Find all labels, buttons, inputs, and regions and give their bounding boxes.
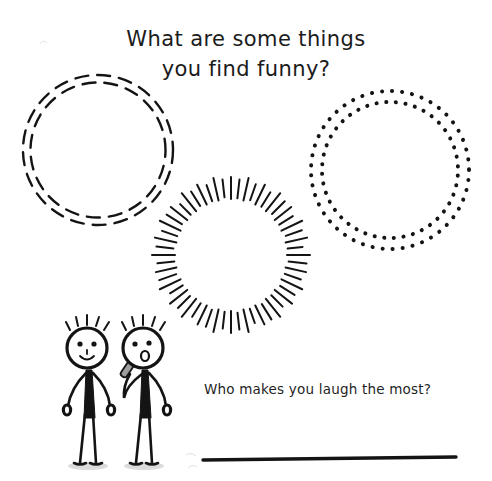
frame-sunburst-circle[interactable] — [152, 177, 310, 333]
figure-hand-right — [107, 405, 114, 415]
stick-figure-smiling[interactable] — [63, 315, 114, 470]
figure-open-mouth — [141, 351, 149, 361]
figure-head — [123, 328, 163, 368]
figure-leg-right — [93, 414, 96, 463]
figure-eye-left — [77, 341, 82, 346]
frame-dotted-double-circle[interactable] — [311, 91, 469, 249]
figure-eye-right — [146, 340, 151, 345]
figure-torso — [140, 370, 151, 418]
worksheet-canvas: What are some things you find funny? — [0, 0, 492, 481]
figure-hand-left — [63, 405, 70, 415]
page-title-line2: you find funny? — [162, 57, 331, 81]
dotted-ring-outer — [311, 91, 469, 249]
dotted-ring-inner — [322, 102, 458, 238]
figure-foot-right — [146, 463, 158, 465]
figure-arm-left — [68, 373, 86, 406]
figure-leg-left — [80, 414, 85, 463]
page-title-line1: What are some things — [126, 27, 365, 51]
figure-arm-right — [149, 373, 166, 406]
stick-figure-with-microphone[interactable] — [120, 315, 171, 470]
figure-head — [67, 328, 107, 368]
frame-dashed-double-circle[interactable] — [23, 75, 173, 225]
prompt-question: Who makes you laugh the most? — [204, 381, 431, 397]
figure-leg-left — [136, 414, 141, 463]
dashed-ring-outer — [23, 75, 173, 225]
answer-write-line[interactable] — [203, 457, 456, 460]
figure-arm-right — [93, 373, 110, 406]
figure-torso — [84, 370, 95, 418]
sunburst-rays — [152, 177, 310, 333]
dashed-ring-inner — [31, 83, 166, 218]
worksheet-page: What are some things you find funny? — [0, 0, 492, 481]
figure-hand-right — [163, 405, 170, 415]
page-title: What are some things you find funny? — [126, 27, 365, 81]
figure-eye-right — [91, 341, 96, 346]
figure-leg-right — [149, 414, 152, 463]
figure-foot-right — [90, 463, 102, 465]
figure-eye-left — [132, 341, 137, 346]
figure-foot-left — [130, 463, 142, 465]
figure-foot-left — [74, 463, 86, 465]
